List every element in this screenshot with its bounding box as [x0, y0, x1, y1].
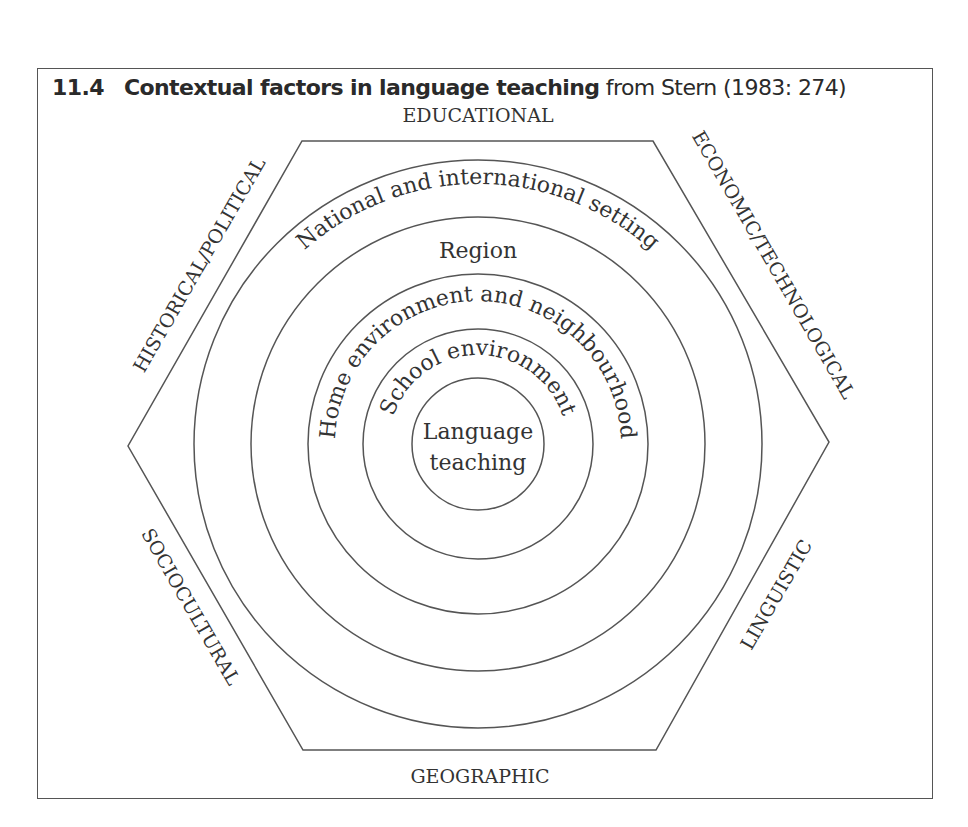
ring-home — [308, 274, 648, 614]
side-label-educational: EDUCATIONAL — [402, 104, 553, 126]
ring-label-region: Region — [439, 238, 517, 263]
core-label-line2: teaching — [430, 450, 527, 475]
ring-core — [412, 378, 544, 510]
side-label-historical-political: HISTORICAL/POLITICAL — [128, 153, 269, 376]
ring-school — [363, 329, 593, 559]
core-label-line1: Language — [423, 419, 533, 444]
side-label-economic-technological: ECONOMIC/TECHNOLOGICAL — [688, 127, 860, 403]
ring-label-school: School environment — [375, 335, 582, 419]
side-label-linguistic: LINGUISTIC — [736, 536, 817, 654]
contextual-factors-diagram: National and international setting Regio… — [0, 0, 968, 827]
side-label-sociocultural: SOCIOCULTURAL — [137, 524, 245, 689]
side-label-geographic: GEOGRAPHIC — [410, 765, 549, 787]
ring-label-home: Home environment and neighbourhood — [315, 281, 641, 440]
